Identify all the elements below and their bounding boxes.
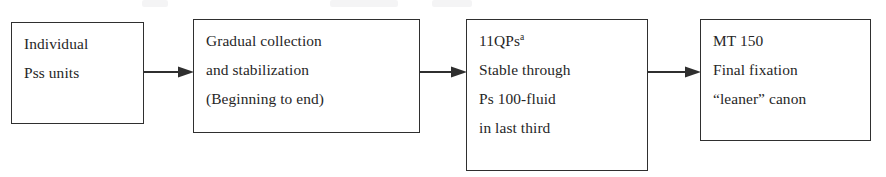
scan-artifact — [432, 0, 472, 7]
flow-box-stage-4: MT 150 Final fixation “leaner” canon — [700, 19, 871, 141]
arrow-stage-3-to-stage-4 — [648, 66, 701, 78]
arrow-stage-1-to-stage-2 — [144, 66, 194, 78]
scan-artifact — [330, 0, 398, 7]
flow-box-line: (Beginning to end) — [206, 85, 419, 114]
flow-box-stage-3: 11QPsa Stable through Ps 100-fluid in la… — [466, 19, 648, 171]
flow-box-line: Stable through — [479, 56, 647, 85]
flow-box-line: and stabilization — [206, 56, 419, 85]
flow-box-stage-1: Individual Pss units — [11, 22, 144, 124]
flow-box-stage-2: Gradual collection and stabilization (Be… — [193, 19, 420, 133]
flow-box-line: “leaner” canon — [713, 85, 870, 114]
flowchart-figure: Individual Pss units Gradual collection … — [0, 0, 886, 177]
flow-box-line: Final fixation — [713, 56, 870, 85]
flow-box-line: Pss units — [24, 59, 143, 88]
flow-box-line-with-superscript: 11QPsa — [479, 27, 647, 56]
arrow-stage-2-to-stage-3 — [420, 66, 467, 78]
flow-box-line: in last third — [479, 114, 647, 143]
flow-box-line: Ps 100-fluid — [479, 85, 647, 114]
flow-box-line: MT 150 — [713, 27, 870, 56]
footnote-superscript: a — [520, 31, 524, 42]
flow-box-line: Individual — [24, 30, 143, 59]
flow-box-line: Gradual collection — [206, 27, 419, 56]
flow-box-line-text: 11QPs — [479, 32, 520, 49]
scan-artifact — [142, 0, 168, 7]
